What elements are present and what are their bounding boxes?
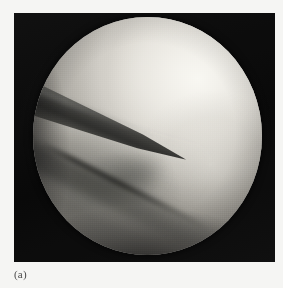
figure-caption: (a)	[14, 268, 27, 281]
figure-root: (a)	[0, 0, 283, 288]
endoscope-field-of-view	[33, 17, 262, 255]
arthroscopy-image-frame	[14, 13, 275, 262]
photo-grain-texture	[33, 17, 262, 255]
